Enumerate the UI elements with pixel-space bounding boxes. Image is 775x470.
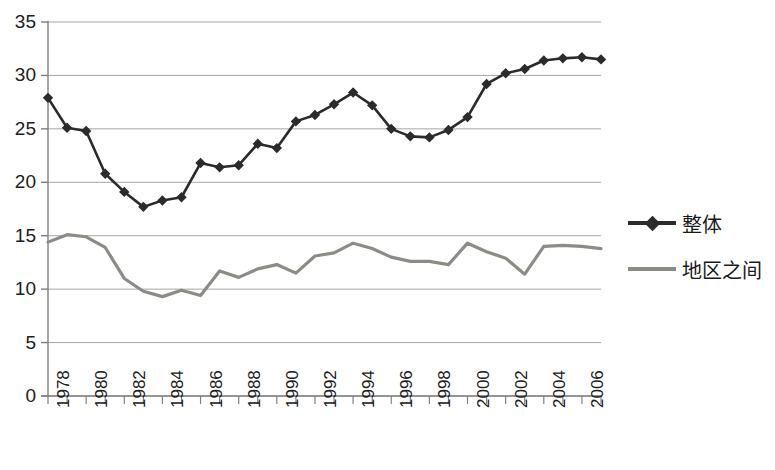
series-line: [48, 57, 601, 207]
y-tick-label: 20: [0, 172, 36, 191]
legend-swatch-overall: [628, 213, 676, 233]
x-tick-label: 1996: [398, 370, 415, 408]
series-1: [43, 52, 606, 212]
chart-container: 05101520253035 1978198019821984198619881…: [0, 0, 775, 470]
y-tick-label: 35: [0, 12, 36, 31]
series-line: [48, 235, 601, 297]
legend-item-overall: 整体: [628, 200, 773, 246]
y-tick-label: 0: [0, 386, 36, 405]
legend-label-between-regions: 地区之间: [682, 255, 762, 284]
diamond-marker-icon: [644, 215, 660, 231]
x-tick-label: 2006: [589, 370, 606, 408]
y-tick-label: 10: [0, 279, 36, 298]
x-tick-label: 1990: [284, 370, 301, 408]
data-point-marker: [577, 52, 587, 62]
data-point-marker: [424, 132, 434, 142]
data-point-marker: [214, 162, 224, 172]
data-point-marker: [558, 53, 568, 63]
x-tick-label: 1992: [322, 370, 339, 408]
legend-swatch-between-regions: [628, 259, 676, 279]
x-tick-label: 1998: [436, 370, 453, 408]
chart-axes: [41, 21, 601, 396]
data-point-marker: [596, 54, 606, 64]
x-tick-label: 2002: [513, 370, 530, 408]
data-point-marker: [481, 79, 491, 89]
data-point-marker: [176, 192, 186, 202]
x-tick-label: 1988: [246, 370, 263, 408]
data-point-marker: [500, 68, 510, 78]
legend-item-between-regions: 地区之间: [628, 246, 773, 292]
series-2: [48, 235, 601, 297]
x-tick-label: 1994: [360, 370, 377, 408]
x-tick-label: 1986: [208, 370, 225, 408]
x-tick-label: 2004: [551, 370, 568, 408]
y-tick-label: 30: [0, 65, 36, 84]
data-point-marker: [539, 55, 549, 65]
legend-label-overall: 整体: [682, 209, 722, 238]
x-tick-label: 1978: [55, 370, 72, 408]
data-point-marker: [195, 158, 205, 168]
y-tick-label: 5: [0, 333, 36, 352]
data-point-marker: [81, 126, 91, 136]
grid-lines: [48, 22, 601, 396]
x-tick-label: 1982: [131, 370, 148, 408]
x-tick-label: 1984: [169, 370, 186, 408]
y-tick-label: 25: [0, 119, 36, 138]
x-tick-label: 1980: [93, 370, 110, 408]
data-point-marker: [157, 195, 167, 205]
y-axis-ticks: [41, 22, 48, 396]
data-point-marker: [520, 64, 530, 74]
y-tick-label: 15: [0, 226, 36, 245]
data-point-marker: [405, 131, 415, 141]
legend-line-between-regions: [628, 267, 676, 271]
data-point-marker: [310, 110, 320, 120]
chart-legend: 整体 地区之间: [628, 200, 773, 292]
x-tick-label: 2000: [475, 370, 492, 408]
